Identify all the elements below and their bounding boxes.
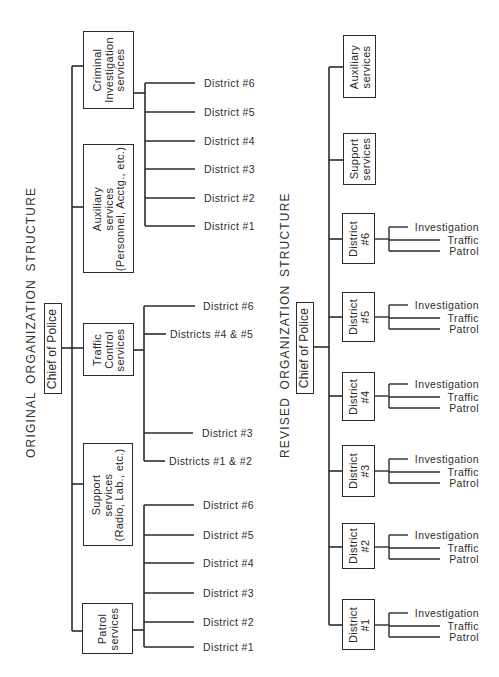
- criminal-investigation-box: Criminal Investigation services: [83, 31, 134, 109]
- revised-chief-of-police-box: Chief of Police: [296, 302, 314, 394]
- patrol-district-5: District #5: [203, 529, 254, 541]
- revised-support-box: Supportservices: [343, 133, 376, 185]
- revised-district-6-box: District#6: [342, 213, 375, 264]
- patrol-services-box: Patrol services: [82, 603, 133, 654]
- revised-support-label: Supportservices: [348, 138, 371, 181]
- revised-district-1-box: District#1: [342, 599, 375, 650]
- revised-district-3-label: District#3: [347, 453, 370, 489]
- criminal-district-6: District #6: [204, 77, 255, 89]
- criminal-district-5: District #5: [204, 106, 255, 118]
- revised-auxiliary-box: Auxiliaryservices: [343, 35, 376, 98]
- revised-district-4-patrol: Patrol: [449, 402, 479, 414]
- revised-district-3-patrol: Patrol: [449, 477, 479, 489]
- revised-district-5-label: District#5: [347, 299, 370, 335]
- criminal-district-4: District #4: [204, 135, 255, 147]
- revised-district-1-patrol: Patrol: [449, 631, 479, 643]
- original-chief-of-police-box: Chief of Police: [44, 303, 62, 394]
- support-services-box: Support services (Radio, Lab., etc.): [83, 443, 133, 546]
- patrol-district-2: District #2: [203, 616, 254, 628]
- patrol-district-4: District #4: [203, 557, 254, 569]
- traffic-district-6: District #6: [203, 300, 254, 312]
- patrol-district-6: District #6: [203, 499, 254, 511]
- auxiliary-services-label: Auxiliary services (Personnel, Acctg., e…: [91, 146, 126, 270]
- original-chief-label: Chief of Police: [47, 308, 59, 388]
- revised-district-5-patrol: Patrol: [449, 323, 479, 335]
- revised-district-6-investigation: Investigation: [415, 221, 479, 233]
- revised-district-2-box: District#2: [342, 523, 375, 569]
- support-services-label: Support services (Radio, Lab., etc.): [91, 448, 126, 541]
- revised-district-2-patrol: Patrol: [449, 553, 479, 565]
- original-structure-title: ORIGINAL ORGANIZATION STRUCTURE: [24, 187, 38, 458]
- criminal-investigation-label: Criminal Investigation services: [91, 37, 126, 103]
- revised-district-6-patrol: Patrol: [449, 245, 479, 257]
- revised-district-1-investigation: Investigation: [415, 607, 479, 619]
- traffic-control-label: Traffic Control services: [91, 328, 126, 371]
- revised-structure-title: REVISED ORGANIZATION STRUCTURE: [278, 192, 292, 458]
- auxiliary-services-box: Auxiliary services (Personnel, Acctg., e…: [83, 144, 134, 273]
- criminal-district-2: District #2: [204, 192, 255, 204]
- patrol-district-1: District #1: [203, 641, 254, 653]
- traffic-districts-4-5: Districts #4 & #5: [170, 328, 253, 340]
- revised-district-5-box: District#5: [342, 292, 375, 342]
- revised-district-2-investigation: Investigation: [415, 529, 479, 541]
- patrol-services-label: Patrol services: [96, 607, 119, 650]
- patrol-district-3: District #3: [203, 587, 254, 599]
- revised-auxiliary-label: Auxiliaryservices: [348, 44, 371, 88]
- revised-district-5-investigation: Investigation: [415, 299, 479, 311]
- criminal-district-1: District #1: [204, 220, 255, 232]
- revised-district-3-box: District#3: [342, 445, 375, 497]
- traffic-districts-1-2: Districts #1 & #2: [169, 455, 252, 467]
- revised-district-4-box: District#4: [342, 372, 375, 421]
- revised-district-4-investigation: Investigation: [415, 378, 479, 390]
- revised-district-6-label: District#6: [347, 220, 370, 256]
- revised-district-4-label: District#4: [347, 378, 370, 414]
- traffic-control-box: Traffic Control services: [83, 323, 134, 376]
- criminal-district-3: District #3: [204, 163, 255, 175]
- revised-district-1-label: District#1: [347, 606, 370, 642]
- revised-district-2-label: District#2: [347, 528, 370, 564]
- revised-chief-label: Chief of Police: [299, 308, 311, 388]
- traffic-district-3: District #3: [202, 427, 253, 439]
- revised-district-3-investigation: Investigation: [415, 453, 479, 465]
